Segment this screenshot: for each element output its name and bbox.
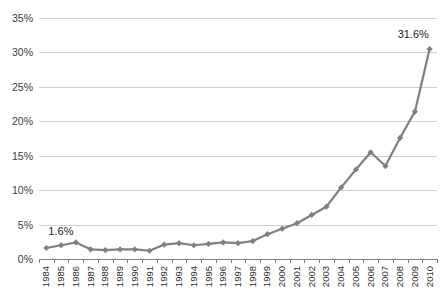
- x-axis-tick: [113, 259, 114, 263]
- last-point-label: 31.6%: [398, 29, 429, 40]
- x-axis-tick-label: 1990: [130, 266, 139, 287]
- x-axis-tick: [378, 259, 379, 263]
- x-axis-tick: [304, 259, 305, 263]
- x-axis-tick-label: 1991: [145, 266, 154, 287]
- x-axis-tick-label: 1993: [174, 266, 183, 287]
- x-axis-tick: [245, 259, 246, 263]
- x-axis-tick: [334, 259, 335, 263]
- x-axis-tick-label: 2002: [307, 266, 316, 287]
- x-axis-tick-label: 1997: [233, 266, 242, 287]
- x-axis-tick: [68, 259, 69, 263]
- x-axis-tick: [260, 259, 261, 263]
- x-axis-tick-label: 1996: [218, 266, 227, 287]
- x-axis-tick: [393, 259, 394, 263]
- x-axis-tick: [186, 259, 187, 263]
- x-axis-tick-label: 2006: [366, 266, 375, 287]
- x-axis-tick: [231, 259, 232, 263]
- line-chart: 0%5%10%15%20%25%30%35% 1.6% 31.6% 198419…: [0, 0, 441, 302]
- x-axis-tick: [142, 259, 143, 263]
- x-axis-tick-label: 2005: [351, 266, 360, 287]
- x-axis-tick: [216, 259, 217, 263]
- x-axis-tick: [201, 259, 202, 263]
- x-axis-tick: [290, 259, 291, 263]
- x-axis-tick-label: 1986: [71, 266, 80, 287]
- data-point-marker: [58, 242, 64, 248]
- x-axis-tick: [54, 259, 55, 263]
- data-point-marker: [102, 247, 108, 253]
- x-axis-tick: [437, 259, 438, 263]
- x-axis-tick: [83, 259, 84, 263]
- x-axis-tick: [363, 259, 364, 263]
- x-axis-tick-label: 1988: [100, 266, 109, 287]
- x-axis-tick: [127, 259, 128, 263]
- x-axis-tick: [39, 259, 40, 263]
- x-axis-tick-label: 1998: [248, 266, 257, 287]
- x-axis-tick: [408, 259, 409, 263]
- data-series-line: [0, 0, 441, 302]
- x-axis-tick-label: 1984: [41, 266, 50, 287]
- data-point-marker: [161, 241, 167, 247]
- x-axis-tick: [172, 259, 173, 263]
- data-point-marker: [205, 241, 211, 247]
- x-axis-tick-label: 2007: [380, 266, 389, 287]
- data-point-marker: [279, 226, 285, 232]
- x-axis-tick-label: 2001: [292, 266, 301, 287]
- x-axis-tick: [349, 259, 350, 263]
- data-point-marker: [43, 245, 49, 251]
- x-axis-tick: [275, 259, 276, 263]
- x-axis-tick: [422, 259, 423, 263]
- x-axis-tick-label: 2004: [336, 266, 345, 287]
- data-point-marker: [235, 240, 241, 246]
- x-axis-tick-label: 1989: [115, 266, 124, 287]
- data-point-marker: [220, 239, 226, 245]
- data-point-marker: [176, 240, 182, 246]
- x-axis-tick-label: 2003: [321, 266, 330, 287]
- x-axis-tick-label: 2008: [395, 266, 404, 287]
- x-axis-tick: [319, 259, 320, 263]
- x-axis-tick-label: 2010: [425, 266, 434, 287]
- x-axis-tick: [98, 259, 99, 263]
- x-axis-tick-label: 1985: [56, 266, 65, 287]
- data-point-marker: [146, 248, 152, 254]
- x-axis-tick-label: 1992: [159, 266, 168, 287]
- x-axis-tick: [157, 259, 158, 263]
- x-axis-tick-label: 1987: [86, 266, 95, 287]
- data-point-marker: [132, 246, 138, 252]
- x-axis-tick-label: 1994: [189, 266, 198, 287]
- data-point-marker: [191, 242, 197, 248]
- x-axis-tick-label: 2000: [277, 266, 286, 287]
- data-point-marker: [117, 246, 123, 252]
- first-point-label: 1.6%: [48, 226, 73, 237]
- x-axis-tick-label: 1995: [204, 266, 213, 287]
- x-axis-tick-label: 1999: [262, 266, 271, 287]
- x-axis-tick-label: 2009: [410, 266, 419, 287]
- data-point-marker: [427, 46, 433, 52]
